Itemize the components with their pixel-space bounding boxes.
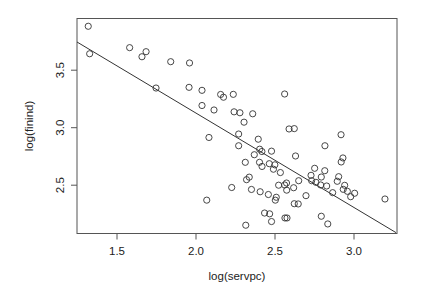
x-tick-label: 2.0 [188, 245, 204, 257]
x-tick-label: 2.5 [267, 245, 283, 257]
data-point [270, 166, 276, 172]
data-point [237, 110, 243, 116]
data-point [338, 132, 344, 138]
data-point [268, 218, 274, 224]
data-point [296, 178, 302, 184]
data-point [303, 193, 309, 199]
y-axis-title: log(finind) [23, 101, 35, 152]
data-point [87, 51, 93, 57]
data-point [229, 184, 235, 190]
scatter-plot: 1.52.02.53.0 2.53.03.5 log(servpc) log(f… [0, 0, 421, 301]
data-point [255, 136, 261, 142]
y-tick-label: 3.5 [54, 62, 66, 78]
data-point [241, 119, 247, 125]
data-point [242, 159, 248, 165]
data-point [325, 221, 331, 227]
data-point [186, 84, 192, 90]
data-point [324, 183, 330, 189]
data-point [382, 196, 388, 202]
data-point [342, 182, 348, 188]
data-point [143, 49, 149, 55]
data-point [338, 159, 344, 165]
data-point [250, 111, 256, 117]
data-point [257, 189, 263, 195]
data-point [127, 45, 133, 51]
data-point [276, 182, 282, 188]
data-point [282, 91, 288, 97]
data-point [248, 186, 254, 192]
data-point [230, 91, 236, 97]
x-tick-label: 3.0 [346, 245, 362, 257]
plot-frame [77, 19, 397, 234]
data-point [206, 134, 212, 140]
data-point [322, 143, 328, 149]
data-point [236, 143, 242, 149]
data-points [85, 23, 388, 228]
data-point [348, 194, 354, 200]
data-point [168, 59, 174, 65]
data-point [318, 213, 324, 219]
x-axis-title: log(servpc) [209, 270, 266, 282]
x-axis: 1.52.02.53.0 [109, 234, 362, 257]
data-point [199, 87, 205, 93]
data-point [243, 222, 249, 228]
data-point [277, 169, 283, 175]
data-point [211, 107, 217, 113]
data-point [268, 148, 274, 154]
data-point [352, 190, 358, 196]
data-point [291, 185, 297, 191]
data-point [312, 165, 318, 171]
x-tick-label: 1.5 [109, 245, 125, 257]
data-point [236, 131, 242, 137]
data-point [85, 23, 91, 29]
data-point [322, 168, 328, 174]
data-point [340, 155, 346, 161]
data-point [284, 187, 290, 193]
data-point [318, 174, 324, 180]
data-point [186, 60, 192, 66]
data-point [292, 153, 298, 159]
y-axis: 2.53.03.5 [54, 62, 77, 193]
data-point [231, 109, 237, 115]
y-tick-label: 2.5 [54, 177, 66, 193]
data-point [272, 162, 278, 168]
data-point [265, 191, 271, 197]
data-point [251, 152, 257, 158]
data-point [295, 201, 301, 207]
data-point [199, 102, 205, 108]
y-tick-label: 3.0 [54, 120, 66, 136]
regression-line [77, 42, 396, 233]
data-point [204, 197, 210, 203]
